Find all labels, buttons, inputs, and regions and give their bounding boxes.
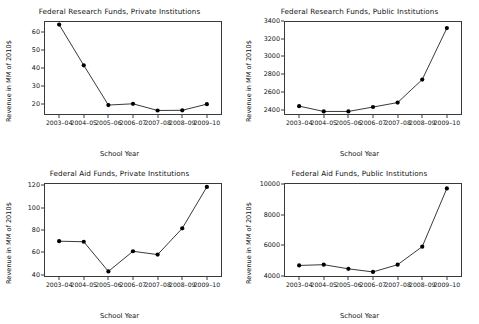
x-tick-mark: [182, 115, 183, 118]
x-tick-label: 2006–07: [120, 119, 146, 126]
x-tick-mark: [83, 115, 84, 118]
series-line: [284, 21, 462, 115]
chart-panel-research-private: Federal Research Funds, Private Institut…: [0, 0, 239, 162]
x-tick-label: 2003–04: [46, 281, 72, 288]
x-tick-label: 2007–08: [144, 119, 170, 126]
data-point-marker: [57, 23, 61, 27]
x-tick-mark: [446, 277, 447, 280]
x-tick-mark: [206, 277, 207, 280]
x-tick-mark: [348, 115, 349, 118]
x-tick-label: 2004–05: [71, 281, 97, 288]
x-tick-label: 2009–10: [194, 119, 220, 126]
x-tick-mark: [422, 277, 423, 280]
y-tick-label: 60: [32, 28, 40, 36]
series-line: [284, 183, 462, 277]
y-tick-label: 20: [32, 100, 40, 108]
data-point-marker: [371, 105, 375, 109]
x-tick-mark: [59, 277, 60, 280]
x-tick-label: 2008–09: [409, 119, 435, 126]
x-tick-label: 2006–07: [360, 119, 386, 126]
plot-area: 4060801001202003–042004–052005–062006–07…: [44, 183, 222, 277]
x-tick-label: 2007–08: [144, 281, 170, 288]
x-tick-label: 2003–04: [286, 119, 312, 126]
y-tick-label: 2600: [264, 88, 280, 96]
figure-grid: Federal Research Funds, Private Institut…: [0, 0, 479, 324]
x-tick-mark: [422, 115, 423, 118]
x-tick-label: 2003–04: [286, 281, 312, 288]
y-tick-label: 50: [32, 46, 40, 54]
x-tick-mark: [108, 277, 109, 280]
y-tick-label: 2400: [264, 106, 280, 114]
x-tick-mark: [108, 115, 109, 118]
data-point-marker: [205, 102, 209, 106]
y-tick-label: 60: [32, 248, 40, 256]
x-tick-label: 2005–06: [335, 119, 361, 126]
x-tick-mark: [157, 115, 158, 118]
y-axis-label: Revenue in MM of 2010$: [3, 0, 15, 162]
data-point-marker: [156, 108, 160, 112]
y-tick-label: 6000: [264, 241, 280, 249]
x-tick-mark: [323, 115, 324, 118]
data-point-marker: [180, 226, 184, 230]
x-tick-label: 2004–05: [311, 281, 337, 288]
data-point-marker: [445, 26, 449, 30]
y-tick-label: 3400: [264, 17, 280, 25]
y-tick-label: 4000: [264, 272, 280, 280]
chart-title: Federal Research Funds, Public Instituti…: [240, 7, 479, 16]
data-point-marker: [396, 100, 400, 104]
data-point-marker: [131, 249, 135, 253]
y-tick-label: 3200: [264, 35, 280, 43]
plot-area: 400060008000100002003–042004–052005–0620…: [284, 183, 462, 277]
y-tick-label: 120: [28, 181, 40, 189]
y-tick-label: 3000: [264, 52, 280, 60]
data-point-marker: [297, 263, 301, 267]
x-tick-label: 2009–10: [434, 119, 460, 126]
data-point-marker: [322, 109, 326, 113]
plot-area: 20304050602003–042004–052005–062006–0720…: [44, 21, 222, 115]
x-tick-label: 2008–09: [169, 281, 195, 288]
x-tick-label: 2007–08: [384, 281, 410, 288]
x-tick-label: 2004–05: [311, 119, 337, 126]
y-axis-label: Revenue in MM of 2010$: [3, 162, 15, 324]
chart-title: Federal Aid Funds, Public Institutions: [240, 169, 479, 178]
x-tick-mark: [157, 277, 158, 280]
x-tick-mark: [59, 115, 60, 118]
data-point-marker: [322, 263, 326, 267]
y-tick-label: 40: [32, 64, 40, 72]
x-tick-mark: [182, 277, 183, 280]
data-point-marker: [346, 267, 350, 271]
data-point-marker: [82, 240, 86, 244]
data-point-marker: [420, 77, 424, 81]
data-point-marker: [156, 253, 160, 257]
x-tick-mark: [206, 115, 207, 118]
x-tick-mark: [373, 115, 374, 118]
data-point-marker: [131, 102, 135, 106]
y-tick-label: 40: [32, 271, 40, 279]
x-tick-label: 2009–10: [434, 281, 460, 288]
data-point-marker: [445, 186, 449, 190]
x-tick-label: 2005–06: [335, 281, 361, 288]
y-tick-label: 8000: [264, 211, 280, 219]
x-axis-label: School Year: [0, 150, 239, 158]
x-tick-label: 2008–09: [409, 281, 435, 288]
y-axis-label: Revenue in MM of 2010$: [243, 0, 255, 162]
data-point-marker: [297, 104, 301, 108]
data-point-marker: [396, 263, 400, 267]
x-tick-label: 2007–08: [384, 119, 410, 126]
x-tick-mark: [133, 277, 134, 280]
chart-title: Federal Research Funds, Private Institut…: [0, 7, 239, 16]
y-tick-label: 80: [32, 226, 40, 234]
footer-partial-text: [0, 317, 479, 324]
x-tick-mark: [83, 277, 84, 280]
data-point-marker: [371, 270, 375, 274]
x-tick-mark: [446, 115, 447, 118]
x-axis-label: School Year: [240, 150, 479, 158]
x-tick-mark: [348, 277, 349, 280]
x-tick-mark: [299, 115, 300, 118]
chart-panel-research-public: Federal Research Funds, Public Instituti…: [240, 0, 479, 162]
data-point-marker: [82, 63, 86, 67]
x-tick-label: 2008–09: [169, 119, 195, 126]
x-tick-label: 2005–06: [95, 119, 121, 126]
y-tick-label: 10000: [260, 180, 280, 188]
x-tick-mark: [299, 277, 300, 280]
